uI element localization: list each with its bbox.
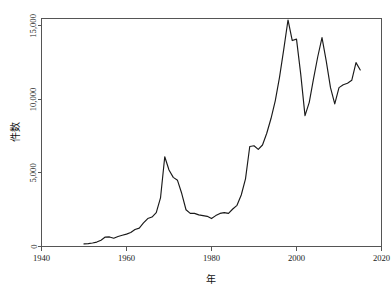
y-tick-label: 0 <box>29 244 39 248</box>
chart-canvas: 05,00010,00015,000 19401960198020002020 … <box>0 0 392 289</box>
y-tick-label: 10,000 <box>29 88 39 112</box>
x-axis-ticks <box>42 247 382 251</box>
x-axis-title: 年 <box>206 273 216 285</box>
x-tick-label: 1940 <box>33 253 50 263</box>
y-axis-ticks <box>38 26 42 247</box>
plot-area-border <box>42 19 382 247</box>
x-tick-label: 1960 <box>118 253 135 263</box>
y-tick-label: 15,000 <box>29 14 39 38</box>
y-axis-tick-labels: 05,00010,00015,000 <box>29 14 39 249</box>
x-tick-label: 2020 <box>373 253 390 263</box>
y-tick-label: 5,000 <box>29 163 39 182</box>
y-axis-title: 件数 <box>9 122 21 142</box>
line-chart: 05,00010,00015,000 19401960198020002020 … <box>0 0 392 289</box>
x-axis-tick-labels: 19401960198020002020 <box>33 253 390 263</box>
x-tick-label: 2000 <box>288 253 305 263</box>
data-series-group <box>84 20 360 244</box>
series-line <box>84 20 360 244</box>
x-tick-label: 1980 <box>203 253 220 263</box>
